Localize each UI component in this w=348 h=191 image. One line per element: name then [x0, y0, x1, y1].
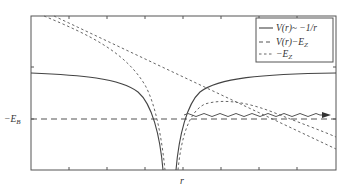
y-ticks — [31, 67, 336, 119]
x-axis-label: r — [180, 175, 184, 186]
tunneling-wave-arrow — [184, 114, 322, 117]
svg-text:V(r)~ −1/r: V(r)~ −1/r — [276, 23, 317, 34]
potential-chart: −EB r V(r)~ −1/r V(r)−EZ −EZ — [0, 0, 348, 191]
coulomb-potential-curve — [31, 73, 336, 170]
arrow-head-icon — [322, 112, 331, 118]
y-level-label: −EB — [4, 114, 21, 126]
legend: V(r)~ −1/r V(r)−EZ −EZ — [256, 18, 333, 62]
